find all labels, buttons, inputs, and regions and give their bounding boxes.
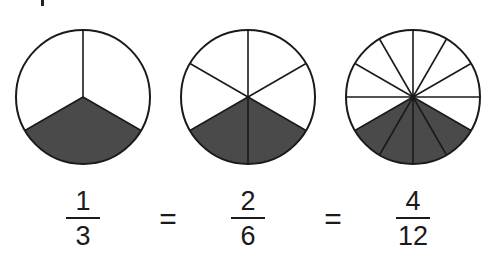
divider-line bbox=[413, 64, 471, 98]
fraction-four-twelfths: 4 12 bbox=[383, 188, 443, 250]
fraction-bar bbox=[396, 217, 430, 219]
fraction-two-sixths: 2 6 bbox=[218, 188, 278, 250]
denominator: 3 bbox=[53, 223, 113, 250]
fraction-bar bbox=[66, 217, 100, 219]
numerator: 2 bbox=[218, 188, 278, 215]
equals-sign: = bbox=[153, 204, 183, 234]
fraction-bar bbox=[231, 217, 265, 219]
denominator: 12 bbox=[383, 223, 443, 250]
fraction-one-third: 1 3 bbox=[53, 188, 113, 250]
pie-diagrams bbox=[0, 0, 490, 180]
divider-line bbox=[380, 39, 414, 97]
divider-line bbox=[355, 64, 413, 98]
pie-twelfths bbox=[346, 30, 480, 164]
denominator: 6 bbox=[218, 223, 278, 250]
cropped-mark bbox=[41, 0, 44, 6]
equals-sign: = bbox=[318, 204, 348, 234]
divider-line bbox=[190, 64, 248, 98]
divider-line bbox=[413, 39, 447, 97]
numerator: 1 bbox=[53, 188, 113, 215]
divider-line bbox=[248, 64, 306, 98]
center-dot bbox=[411, 95, 416, 100]
pie-sixths bbox=[181, 30, 315, 164]
numerator: 4 bbox=[383, 188, 443, 215]
pie-thirds bbox=[16, 30, 150, 164]
shaded-sector bbox=[25, 97, 141, 164]
